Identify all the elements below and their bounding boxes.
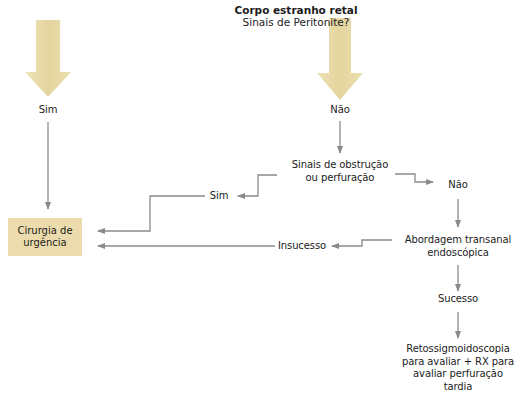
flowchart-title: Corpo estranho retal Sinais de Peritonit…: [196, 4, 396, 28]
surgery-line-2: urgência: [17, 237, 72, 250]
node-surgery-box: Cirurgia de urgência: [8, 218, 82, 256]
transanal-line-1: Abordagem transanal: [398, 234, 518, 247]
node-failure: Insucesso: [276, 240, 328, 253]
followup-line-1: Retossigmoidoscopia: [398, 343, 518, 356]
node-success: Sucesso: [428, 293, 488, 306]
transanal-line-2: endoscópica: [398, 247, 518, 260]
node-obstruction: Sinais de obstrução ou perfuração: [280, 159, 400, 184]
node-transanal: Abordagem transanal endoscópica: [398, 234, 518, 259]
obstruction-line-2: ou perfuração: [280, 172, 400, 185]
title-heading: Corpo estranho retal: [196, 4, 396, 16]
obstruction-line-1: Sinais de obstrução: [280, 159, 400, 172]
node-nao-top: Não: [320, 104, 360, 117]
followup-line-2: para avaliar + RX para: [398, 356, 518, 369]
node-sim-mid: Sim: [204, 190, 234, 203]
big-arrow-right-icon: [317, 18, 363, 100]
followup-line-4: tardia: [398, 381, 518, 394]
title-question: Sinais de Peritonite?: [196, 16, 396, 28]
node-sim-left: Sim: [28, 104, 68, 117]
followup-line-3: avaliar perfuração: [398, 368, 518, 381]
big-arrow-left-icon: [25, 20, 71, 97]
node-followup: Retossigmoidoscopia para avaliar + RX pa…: [398, 343, 518, 393]
flowchart-connectors: [0, 0, 518, 398]
node-nao-right: Não: [443, 179, 473, 192]
surgery-line-1: Cirurgia de: [17, 225, 72, 238]
